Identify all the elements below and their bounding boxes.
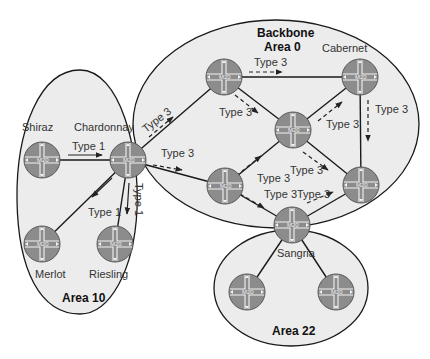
- router-area22-left: M20: [229, 274, 265, 310]
- router-chardonnay: M20: [110, 142, 146, 178]
- svg-text:M20: M20: [355, 74, 367, 80]
- router-cabernet: M20: [342, 59, 378, 95]
- router-area22-right: M20: [318, 274, 354, 310]
- svg-text:M20: M20: [110, 241, 122, 247]
- lsa-label-chardonnay-riesling: Type 1: [133, 183, 145, 216]
- lsa-label-bottom-left-middle: Type 3: [257, 172, 290, 184]
- router-bb-bottom-right: M20: [343, 167, 379, 203]
- label-chardonnay: Chardonnay: [74, 121, 134, 133]
- label-backbone: Backbone: [257, 26, 315, 40]
- lsa-label-sangria-bottom-right: Type 3: [297, 188, 330, 200]
- svg-text:M20: M20: [242, 289, 254, 295]
- lsa-label-bb-top-left-cabernet: Type 3: [254, 56, 287, 68]
- svg-text:M20: M20: [356, 182, 368, 188]
- svg-text:M20: M20: [219, 74, 231, 80]
- label-sangria: Sangria: [277, 247, 316, 259]
- svg-text:M20: M20: [287, 222, 299, 228]
- svg-text:M20: M20: [331, 289, 343, 295]
- label-riesling: Riesling: [89, 268, 128, 280]
- svg-text:M20: M20: [288, 127, 300, 133]
- svg-text:M20: M20: [123, 157, 135, 163]
- router-merlot: M20: [24, 226, 60, 262]
- label-area22: Area 22: [272, 324, 316, 338]
- svg-text:M20: M20: [220, 183, 232, 189]
- lsa-label-chardonnay-merlot: Type 1: [88, 206, 121, 218]
- svg-text:M20: M20: [37, 157, 49, 163]
- router-bb-middle: M20: [275, 112, 311, 148]
- label-merlot: Merlot: [35, 268, 66, 280]
- ospf-area-diagram: Type 1 Type 1 Type 1 Type 3 Type 3 Type …: [0, 0, 430, 359]
- lsa-label-shiraz-chardonnay: Type 1: [72, 140, 105, 152]
- label-area0: Area 0: [264, 40, 301, 54]
- lsa-label-middle-bottom-right: Type 3: [290, 164, 323, 176]
- lsa-label-bottom-left-sangria: Type 3: [264, 188, 297, 200]
- lsa-label-middle-cabernet: Type 3: [326, 118, 359, 130]
- lsa-label-cabernet-bottom-right: Type 3: [375, 103, 408, 115]
- svg-text:M20: M20: [37, 241, 49, 247]
- lsa-label-bb-top-left-middle: Type 3: [219, 106, 252, 118]
- label-shiraz: Shiraz: [22, 121, 53, 133]
- lsa-label-chardonnay-bb-bottom-left: Type 3: [161, 147, 194, 159]
- router-riesling: M20: [97, 226, 133, 262]
- router-bb-top-left: M20: [206, 59, 242, 95]
- label-area10: Area 10: [62, 291, 106, 305]
- router-bb-bottom-left: M20: [207, 168, 243, 204]
- router-shiraz: M20: [24, 142, 60, 178]
- router-sangria: M20: [274, 207, 310, 243]
- label-cabernet: Cabernet: [322, 42, 367, 54]
